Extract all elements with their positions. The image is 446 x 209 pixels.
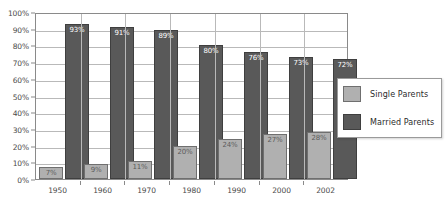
x-axis-tick-mark xyxy=(169,181,170,185)
legend-item-married-parents[interactable]: Married Parents xyxy=(343,112,434,132)
x-axis-tick-label: 1970 xyxy=(124,186,169,195)
y-axis-tick-label: 10% xyxy=(13,159,29,168)
bar-value-label: 7% xyxy=(40,170,62,177)
bar-single-parents[interactable]: 9% xyxy=(84,164,108,179)
y-axis-tick-label: 40% xyxy=(13,109,29,118)
x-axis-tick-mark xyxy=(259,181,260,185)
y-axis-tick-label: 80% xyxy=(13,42,29,51)
y-axis-tick-label: 100% xyxy=(8,9,29,18)
y-axis-tick-label: 20% xyxy=(13,142,29,151)
bar-group: 27%73% xyxy=(260,14,305,179)
bar-single-parents[interactable]: 11% xyxy=(128,161,152,179)
x-axis-tick-label: 1950 xyxy=(35,186,80,195)
bar-value-label: 24% xyxy=(219,142,241,149)
bar-single-parents[interactable]: 24% xyxy=(218,139,242,179)
bar-single-parents[interactable]: 27% xyxy=(263,134,287,179)
x-axis-tick-label: 1990 xyxy=(214,186,259,195)
legend-label-single-parents: Single Parents xyxy=(370,90,428,99)
bar-group: 24%76% xyxy=(215,14,260,179)
y-axis-tick-label: 90% xyxy=(13,25,29,34)
bar-group: 9%91% xyxy=(81,14,126,179)
bar-single-parents[interactable]: 20% xyxy=(173,146,197,179)
plot-area: 7%93%9%91%11%89%20%80%24%76%27%73%28%72% xyxy=(35,13,348,180)
legend-label-married-parents: Married Parents xyxy=(370,118,434,127)
y-axis: 100%90%80%70%60%50%40%30%20%10%0% xyxy=(0,13,35,180)
bar-chart: 100%90%80%70%60%50%40%30%20%10%0% 7%93%9… xyxy=(0,0,446,209)
bar-value-label: 27% xyxy=(264,137,286,144)
y-axis-tick-label: 30% xyxy=(13,125,29,134)
x-axis-tick-label: 1980 xyxy=(169,186,214,195)
x-axis-tick-mark xyxy=(303,181,304,185)
y-axis-tick-label: 0% xyxy=(17,176,29,185)
bar-group: 7%93% xyxy=(36,14,81,179)
bar-value-label: 72% xyxy=(334,62,356,69)
x-axis-tick-label: 2000 xyxy=(259,186,304,195)
bar-single-parents[interactable]: 7% xyxy=(39,167,63,179)
x-axis-tick-mark xyxy=(124,181,125,185)
x-axis-tick-mark xyxy=(214,181,215,185)
bar-value-label: 11% xyxy=(129,164,151,171)
legend-swatch-married-parents-icon xyxy=(343,114,361,130)
x-axis-tick-label: 2002 xyxy=(303,186,348,195)
legend-item-single-parents[interactable]: Single Parents xyxy=(343,84,428,104)
x-axis-tick-mark xyxy=(80,181,81,185)
bar-value-label: 28% xyxy=(308,135,330,142)
bar-group: 11%89% xyxy=(125,14,170,179)
bar-value-label: 9% xyxy=(85,167,107,174)
x-axis: 1950196019701980199020002002 xyxy=(35,181,348,203)
chart-legend: Single Parents Married Parents xyxy=(337,78,442,138)
y-axis-tick-label: 70% xyxy=(13,59,29,68)
bar-group: 20%80% xyxy=(170,14,215,179)
y-axis-tick-label: 60% xyxy=(13,75,29,84)
x-axis-tick-label: 1960 xyxy=(80,186,125,195)
bar-value-label: 20% xyxy=(174,149,196,156)
y-axis-tick-label: 50% xyxy=(13,92,29,101)
legend-swatch-single-parents-icon xyxy=(343,86,361,102)
bar-single-parents[interactable]: 28% xyxy=(307,132,331,179)
